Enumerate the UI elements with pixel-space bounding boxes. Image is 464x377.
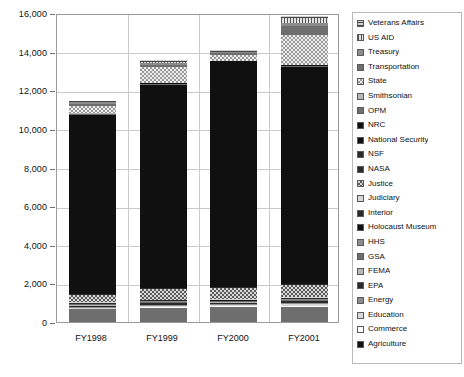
chart-root: 02,0004,0006,0008,00010,00012,00014,0001… [0, 0, 464, 377]
legend-item-judiciary[interactable]: Judiciary [357, 191, 459, 206]
y-tick-label: 6,000 [24, 202, 47, 212]
x-tick-label: FY2000 [217, 333, 249, 343]
legend-swatch-icon [357, 253, 364, 260]
legend-item-label: Treasury [368, 45, 399, 60]
x-tick-label: FY1999 [146, 333, 178, 343]
bar-segment [210, 288, 257, 299]
legend-item-veterans-affairs[interactable]: Veterans Affairs [357, 16, 459, 31]
bar-segment [281, 285, 328, 297]
legend-item-label: Energy [368, 293, 393, 308]
legend-swatch-icon [357, 210, 364, 217]
legend-item-label: Agriculture [368, 337, 406, 352]
bar-segment [69, 309, 116, 322]
y-tick-label: 2,000 [24, 279, 47, 289]
bar-segment [140, 289, 187, 300]
plot-area [56, 14, 339, 323]
legend-item-label: National Security [368, 133, 428, 148]
legend-item-label: Justice [368, 177, 393, 192]
legend-item-education[interactable]: Education [357, 308, 459, 323]
legend-item-label: Veterans Affairs [368, 16, 424, 31]
legend-swatch-icon [357, 107, 364, 114]
legend-item-state[interactable]: State [357, 74, 459, 89]
y-tick-label: 0 [42, 318, 47, 328]
bar-segment [281, 307, 328, 322]
legend-swatch-icon [357, 64, 364, 71]
bar-fy1998[interactable] [69, 101, 116, 322]
legend-item-epa[interactable]: EPA [357, 279, 459, 294]
legend-item-label: EPA [368, 279, 383, 294]
bar-fy2001[interactable] [281, 16, 328, 322]
legend-swatch-icon [357, 297, 364, 304]
legend-swatch-icon [357, 326, 364, 333]
chart-legend: Veterans AffairsUS AIDTreasuryTransporta… [352, 12, 462, 364]
legend-item-holocaust-museum[interactable]: Holocaust Museum [357, 220, 459, 235]
legend-item-justice[interactable]: Justice [357, 177, 459, 192]
legend-swatch-icon [357, 166, 364, 173]
category-divider [199, 15, 200, 322]
legend-item-opm[interactable]: OPM [357, 104, 459, 119]
legend-swatch-icon [357, 239, 364, 246]
bar-segment [140, 67, 187, 83]
bar-segment [281, 35, 328, 64]
legend-item-label: State [368, 74, 387, 89]
legend-swatch-icon [357, 341, 364, 348]
legend-swatch-icon [357, 268, 364, 275]
legend-item-label: Interior [368, 206, 393, 221]
legend-item-nrc[interactable]: NRC [357, 118, 459, 133]
y-tick-mark [50, 207, 55, 208]
legend-item-smithsonian[interactable]: Smithsonian [357, 89, 459, 104]
bar-fy1999[interactable] [140, 60, 187, 322]
bar-segment [69, 115, 116, 294]
y-axis: 02,0004,0006,0008,00010,00012,00014,0001… [0, 0, 56, 323]
y-tick-mark [50, 91, 55, 92]
bar-fy2000[interactable] [210, 50, 257, 322]
legend-swatch-icon [357, 122, 364, 129]
y-tick-mark [50, 284, 55, 285]
x-tick-label: FY1998 [75, 333, 107, 343]
x-axis: FY1998FY1999FY2000FY2001 [56, 323, 339, 353]
legend-item-transportation[interactable]: Transportation [357, 60, 459, 75]
legend-item-label: Holocaust Museum [368, 220, 436, 235]
legend-item-label: US AID [368, 31, 394, 46]
legend-item-nsf[interactable]: NSF [357, 147, 459, 162]
legend-item-label: HHS [368, 235, 385, 250]
legend-item-label: OPM [368, 104, 386, 119]
legend-item-commerce[interactable]: Commerce [357, 322, 459, 337]
y-tick-mark [50, 130, 55, 131]
legend-item-treasury[interactable]: Treasury [357, 45, 459, 60]
bar-segment [140, 308, 187, 322]
legend-item-hhs[interactable]: HHS [357, 235, 459, 250]
legend-item-label: NRC [368, 118, 385, 133]
y-tick-mark [50, 246, 55, 247]
y-tick-label: 4,000 [24, 241, 47, 251]
bar-segment [69, 295, 116, 303]
legend-item-label: NASA [368, 162, 390, 177]
bar-segment [140, 85, 187, 288]
y-tick-mark [50, 14, 55, 15]
legend-item-label: Education [368, 308, 404, 323]
legend-item-national-security[interactable]: National Security [357, 133, 459, 148]
y-tick-label: 10,000 [19, 125, 47, 135]
legend-item-nasa[interactable]: NASA [357, 162, 459, 177]
legend-swatch-icon [357, 20, 364, 27]
legend-swatch-icon [357, 282, 364, 289]
legend-swatch-icon [357, 312, 364, 319]
legend-item-interior[interactable]: Interior [357, 206, 459, 221]
legend-swatch-icon [357, 137, 364, 144]
legend-swatch-icon [357, 224, 364, 231]
y-tick-label: 14,000 [19, 48, 47, 58]
legend-item-agriculture[interactable]: Agriculture [357, 337, 459, 352]
legend-item-label: Judiciary [368, 191, 400, 206]
y-tick-mark [50, 53, 55, 54]
bar-segment [281, 26, 328, 35]
legend-swatch-icon [357, 49, 364, 56]
bar-segment [69, 106, 116, 113]
bar-segment [210, 307, 257, 322]
legend-item-energy[interactable]: Energy [357, 293, 459, 308]
legend-item-gsa[interactable]: GSA [357, 250, 459, 265]
legend-swatch-icon [357, 195, 364, 202]
y-tick-label: 8,000 [24, 164, 47, 174]
legend-item-fema[interactable]: FEMA [357, 264, 459, 279]
legend-swatch-icon [357, 93, 364, 100]
legend-item-us-aid[interactable]: US AID [357, 31, 459, 46]
